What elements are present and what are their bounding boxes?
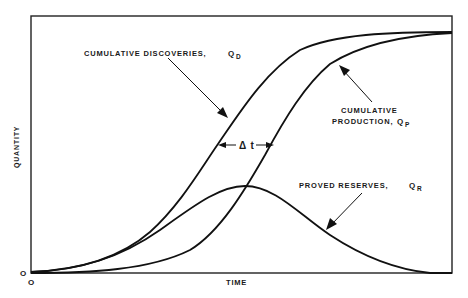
x-origin-label: O — [28, 278, 35, 287]
discoveries-arrow-line — [168, 58, 225, 115]
curve-cumulative-discoveries — [31, 32, 452, 272]
reserves-arrow-line — [330, 193, 362, 226]
curve-proved-reserves — [31, 186, 452, 273]
hubbert-cycle-chart: Δ t CUMULATIVE DISCOVERIES, Q D CUMULATI… — [0, 0, 468, 298]
x-axis-label: TIME — [226, 278, 247, 287]
production-arrow-line — [343, 70, 372, 102]
delta-t-label: Δ t — [239, 140, 255, 151]
production-symbol: Q — [397, 117, 404, 126]
reserves-label: PROVED RESERVES, — [299, 181, 388, 190]
discoveries-symbol: Q — [228, 49, 235, 58]
y-origin-label: O — [20, 269, 27, 278]
discoveries-label: CUMULATIVE DISCOVERIES, — [84, 49, 206, 58]
reserves-symbol: Q — [409, 181, 416, 190]
reserves-subscript: R — [417, 185, 423, 192]
discoveries-subscript: D — [236, 53, 242, 60]
production-label-line1: CUMULATIVE — [341, 106, 398, 115]
curve-cumulative-production — [31, 33, 452, 273]
production-arrowhead — [339, 65, 350, 76]
production-subscript: P — [405, 121, 410, 128]
production-label-line2: PRODUCTION, — [332, 117, 393, 126]
y-axis-label: QUANTITY — [13, 126, 21, 168]
